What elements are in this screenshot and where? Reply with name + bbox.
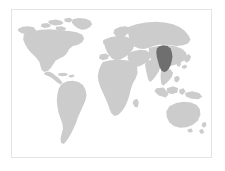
world-locator-map-figure: World locator map [0,0,225,171]
world-map-svg: World locator map [12,10,211,157]
map-frame: World locator map [11,9,212,158]
